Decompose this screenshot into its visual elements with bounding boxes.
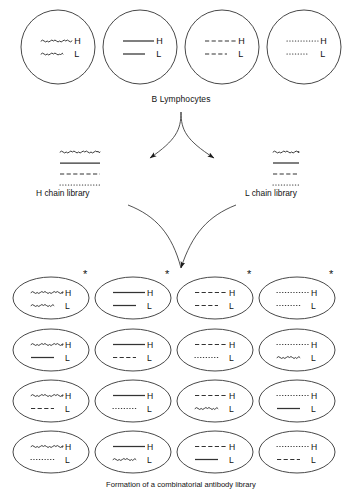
l-chain-library-label: L chain library bbox=[245, 188, 297, 198]
clone-outline bbox=[95, 431, 171, 473]
h-chain-library bbox=[60, 151, 100, 185]
match-asterisk: * bbox=[329, 268, 334, 280]
heavy-chain-label: H bbox=[65, 391, 71, 401]
light-chain-label: L bbox=[65, 404, 70, 414]
clone-outline bbox=[259, 431, 335, 473]
match-asterisk: * bbox=[83, 268, 88, 280]
figure-canvas: HLHLHLHLHL*HL*HL*HL*HLHLHLHLHLHLHLHLHLHL… bbox=[0, 0, 363, 491]
cell-membrane bbox=[267, 10, 341, 84]
library-chain-line bbox=[60, 151, 100, 153]
light-chain-label: L bbox=[65, 455, 70, 465]
heavy-chain-label: H bbox=[65, 442, 71, 452]
heavy-chain-label: H bbox=[229, 442, 235, 452]
light-chain-label: L bbox=[311, 353, 316, 363]
combinatorial-clone: HL bbox=[259, 431, 335, 473]
combinatorial-clone: HL bbox=[13, 329, 89, 371]
heavy-chain-label: H bbox=[65, 340, 71, 350]
heavy-chain-label: H bbox=[238, 36, 245, 46]
figure-caption: Formation of a combinatorial antibody li… bbox=[106, 480, 256, 489]
cell-membrane bbox=[185, 10, 259, 84]
heavy-chain-label: H bbox=[147, 391, 153, 401]
heavy-chain-label: H bbox=[147, 340, 153, 350]
light-chain-label: L bbox=[238, 49, 243, 59]
clone-outline bbox=[259, 329, 335, 371]
combinatorial-clone: HL* bbox=[95, 268, 171, 319]
light-chain-line bbox=[41, 53, 63, 55]
light-chain-label: L bbox=[229, 353, 234, 363]
light-chain-line bbox=[31, 305, 54, 307]
heavy-chain-label: H bbox=[311, 391, 317, 401]
combinatorial-clone: HL bbox=[177, 380, 253, 422]
heavy-chain-label: H bbox=[311, 340, 317, 350]
b-lymphocyte-cell: HL bbox=[185, 10, 259, 84]
light-chain-line bbox=[113, 459, 136, 461]
light-chain-label: L bbox=[147, 404, 152, 414]
heavy-chain-label: H bbox=[74, 36, 81, 46]
clone-outline bbox=[177, 277, 253, 319]
cell-membrane bbox=[103, 10, 177, 84]
diagram-artwork: HLHLHLHLHL*HL*HL*HL*HLHLHLHLHLHLHLHLHLHL… bbox=[0, 0, 363, 491]
clone-outline bbox=[259, 277, 335, 319]
heavy-chain-label: H bbox=[147, 288, 153, 298]
h-chain-library-label: H chain library bbox=[36, 188, 90, 198]
light-chain-label: L bbox=[320, 49, 325, 59]
light-chain-label: L bbox=[311, 455, 316, 465]
b-lymphocytes-label: B Lymphocytes bbox=[151, 94, 210, 104]
light-chain-label: L bbox=[147, 455, 152, 465]
combinatorial-clone: HL* bbox=[13, 268, 89, 319]
combinatorial-clone: HL bbox=[95, 329, 171, 371]
match-asterisk: * bbox=[247, 268, 252, 280]
clone-outline bbox=[13, 277, 89, 319]
combinatorial-clone: HL bbox=[95, 431, 171, 473]
light-chain-label: L bbox=[65, 301, 70, 311]
arrow-to-l-library bbox=[181, 112, 214, 158]
clone-outline bbox=[177, 380, 253, 422]
b-lymphocyte-cell: HL bbox=[267, 10, 341, 84]
clone-outline bbox=[177, 329, 253, 371]
library-chain-line bbox=[273, 151, 299, 153]
combinatorial-clone: HL bbox=[95, 380, 171, 422]
combinatorial-clone: HL* bbox=[177, 268, 253, 319]
clone-outline bbox=[259, 380, 335, 422]
light-chain-label: L bbox=[74, 49, 79, 59]
combinatorial-clone: HL bbox=[13, 431, 89, 473]
clone-outline bbox=[95, 277, 171, 319]
heavy-chain-line bbox=[31, 395, 63, 397]
heavy-chain-line bbox=[31, 292, 63, 294]
heavy-chain-label: H bbox=[65, 288, 71, 298]
combinatorial-clone: HL bbox=[13, 380, 89, 422]
light-chain-label: L bbox=[147, 353, 152, 363]
combinatorial-clone: HL bbox=[177, 431, 253, 473]
heavy-chain-label: H bbox=[229, 340, 235, 350]
combinatorial-clone: HL bbox=[177, 329, 253, 371]
heavy-chain-line bbox=[41, 40, 72, 42]
heavy-chain-label: H bbox=[229, 391, 235, 401]
cell-membrane bbox=[21, 10, 95, 84]
arrow-from-l-library bbox=[181, 205, 236, 268]
arrow-to-h-library bbox=[150, 112, 181, 158]
light-chain-label: L bbox=[229, 404, 234, 414]
match-asterisk: * bbox=[165, 268, 170, 280]
b-lymphocyte-cell: HL bbox=[21, 10, 95, 84]
light-chain-label: L bbox=[65, 353, 70, 363]
light-chain-label: L bbox=[229, 455, 234, 465]
light-chain-label: L bbox=[147, 301, 152, 311]
light-chain-label: L bbox=[311, 404, 316, 414]
clone-outline bbox=[13, 329, 89, 371]
heavy-chain-line bbox=[31, 446, 63, 448]
clone-outline bbox=[13, 380, 89, 422]
clone-outline bbox=[177, 431, 253, 473]
heavy-chain-label: H bbox=[229, 288, 235, 298]
combinatorial-clone: HL* bbox=[259, 268, 335, 319]
heavy-chain-label: H bbox=[156, 36, 163, 46]
arrow-from-h-library bbox=[128, 205, 181, 268]
light-chain-label: L bbox=[229, 301, 234, 311]
light-chain-line bbox=[195, 408, 218, 410]
combinatorial-clone: HL bbox=[259, 329, 335, 371]
heavy-chain-line bbox=[31, 344, 63, 346]
clone-outline bbox=[95, 380, 171, 422]
combinatorial-clone: HL bbox=[259, 380, 335, 422]
heavy-chain-label: H bbox=[147, 442, 153, 452]
b-lymphocyte-cell: HL bbox=[103, 10, 177, 84]
light-chain-label: L bbox=[311, 301, 316, 311]
